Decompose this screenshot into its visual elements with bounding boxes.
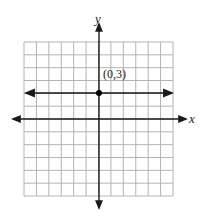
x-axis-label: x (188, 111, 195, 126)
point-0-3 (96, 90, 102, 96)
point-label: (0,3) (103, 67, 126, 81)
coordinate-plane: (0,3) x y (0, 0, 206, 222)
y-axis-label: y (93, 11, 101, 26)
